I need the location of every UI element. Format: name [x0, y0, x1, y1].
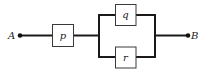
terminal-a-label: A [7, 30, 15, 41]
component-q: q [116, 5, 137, 26]
component-r: r [116, 47, 137, 68]
terminal-a-node [18, 33, 23, 38]
component-q-label: q [122, 9, 128, 20]
circuit-diagram: A B p q r [0, 0, 205, 75]
component-p-label: p [60, 30, 67, 41]
component-p: p [53, 25, 74, 47]
terminal-b-label: B [190, 30, 198, 41]
terminal-b-node [186, 33, 191, 38]
